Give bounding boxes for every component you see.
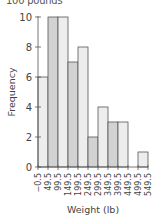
x-tick-label: 449.5 [124, 173, 133, 196]
y-tick-label: 0 [26, 162, 32, 173]
histogram-bar [68, 62, 78, 167]
x-tick-label: 199.5 [74, 173, 83, 196]
x-tick-label: 249.5 [84, 173, 93, 196]
x-tick-label: 399.5 [114, 173, 123, 196]
x-tick-label: 49.5 [44, 173, 53, 191]
histogram-bar [78, 47, 88, 167]
histogram-bar [138, 152, 148, 167]
x-axis-label: Weight (lb) [67, 204, 119, 215]
y-tick-label: 10 [19, 12, 32, 23]
histogram-bar [88, 137, 98, 167]
histogram: 0246810−0.549.599.5149.5199.5249.5299.53… [0, 0, 162, 221]
histogram-bar [98, 107, 108, 167]
x-tick-label: 499.5 [134, 173, 143, 196]
x-tick-label: 149.5 [64, 173, 73, 196]
x-tick-label: −0.5 [34, 173, 43, 192]
x-tick-label: 349.5 [104, 173, 113, 196]
y-axis-label: Frequency [6, 67, 17, 116]
histogram-bar [58, 17, 68, 167]
histogram-bar [48, 17, 58, 167]
histogram-bar [108, 122, 118, 167]
y-tick-label: 8 [26, 42, 32, 53]
y-tick-label: 2 [26, 132, 32, 143]
x-tick-label: 299.5 [94, 173, 103, 196]
y-tick-label: 4 [26, 102, 32, 113]
histogram-bar [38, 77, 48, 167]
y-tick-label: 6 [26, 72, 32, 83]
x-tick-label: 549.5 [144, 173, 153, 196]
histogram-bar [118, 122, 128, 167]
x-tick-label: 99.5 [54, 173, 63, 191]
